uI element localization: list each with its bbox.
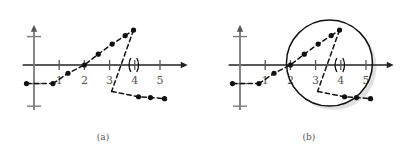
data-point (123, 33, 128, 38)
x-tick-label-4: 4 (131, 74, 138, 87)
figure-container: 1234512345 (a) (b) (0, 0, 413, 154)
figure-svg: 1234512345 (0, 0, 413, 154)
data-point (329, 33, 334, 38)
x-axis-arrowhead-icon (387, 62, 394, 68)
x-tick-label-5: 5 (157, 74, 164, 87)
data-point (131, 28, 136, 33)
data-point (230, 81, 235, 86)
data-point (288, 62, 293, 67)
data-point (337, 28, 342, 33)
x-tick-label-3: 3 (312, 74, 319, 87)
data-point (256, 81, 261, 86)
data-point (136, 94, 141, 99)
data-point (271, 71, 276, 76)
data-point (316, 41, 321, 46)
panel-b-caption: (b) (289, 132, 329, 142)
x-tick-label-2: 2 (81, 74, 88, 87)
data-point (24, 81, 29, 86)
data-point (342, 94, 347, 99)
data-point (368, 96, 373, 101)
data-point (50, 81, 55, 86)
data-point (110, 41, 115, 46)
y-axis-arrowhead-icon (31, 25, 37, 32)
data-point (302, 52, 307, 57)
data-point (148, 95, 153, 100)
panel-a-caption: (a) (83, 132, 123, 142)
x-axis-arrowhead-icon (181, 62, 188, 68)
data-point (65, 71, 70, 76)
data-point (162, 96, 167, 101)
panel-a: 12345 (23, 25, 188, 110)
panel-b: 12345 (229, 20, 394, 110)
data-point (82, 62, 87, 67)
data-point (96, 52, 101, 57)
x-tick-label-3: 3 (106, 74, 113, 87)
y-axis-arrowhead-icon (237, 25, 243, 32)
x-tick-label-4: 4 (337, 74, 344, 87)
